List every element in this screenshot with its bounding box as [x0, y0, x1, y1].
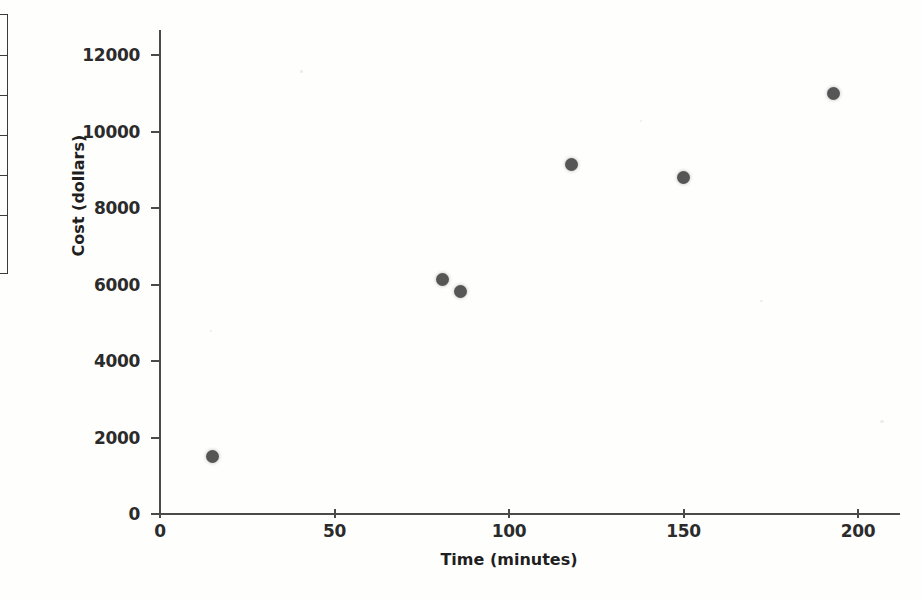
x-axis-line — [160, 513, 900, 515]
y-tick-mark — [151, 54, 160, 56]
y-tick-mark — [151, 131, 160, 133]
y-tick-mark — [151, 284, 160, 286]
y-axis-line — [159, 30, 161, 516]
x-tick-label: 50 — [300, 521, 370, 541]
y-tick-label: 6000 — [74, 275, 140, 295]
scatter-plot: 020004000600080001000012000 050100150200… — [0, 0, 922, 601]
y-tick-label: 12000 — [74, 45, 140, 65]
y-tick-mark — [151, 437, 160, 439]
x-tick-mark — [159, 509, 161, 518]
data-point — [827, 87, 840, 100]
y-tick-label-wrap: 6000 — [74, 275, 140, 295]
y-tick-label-wrap: 2000 — [74, 428, 140, 448]
x-tick-label: 150 — [649, 521, 719, 541]
x-tick-mark — [334, 509, 336, 518]
x-tick-label: 100 — [474, 521, 544, 541]
x-tick-label: 200 — [823, 521, 893, 541]
x-tick-mark — [857, 509, 859, 518]
y-tick-label-wrap: 12000 — [74, 45, 140, 65]
scan-speck — [880, 420, 884, 423]
y-axis-title: Cost (dollars) — [69, 116, 88, 276]
y-tick-mark — [151, 360, 160, 362]
x-tick-label: 0 — [125, 521, 195, 541]
x-tick-mark — [683, 509, 685, 518]
data-point — [206, 450, 219, 463]
data-point — [436, 273, 449, 286]
scan-speck — [210, 330, 212, 332]
y-tick-mark — [151, 207, 160, 209]
scan-speck — [640, 120, 642, 122]
scan-speck — [760, 300, 763, 302]
y-tick-label: 4000 — [74, 351, 140, 371]
x-tick-mark — [508, 509, 510, 518]
scan-speck — [300, 70, 303, 73]
x-axis-title: Time (minutes) — [160, 550, 858, 569]
y-tick-label-wrap: 4000 — [74, 351, 140, 371]
data-point — [677, 171, 690, 184]
data-point — [454, 285, 467, 298]
y-tick-label: 2000 — [74, 428, 140, 448]
data-point — [565, 158, 578, 171]
